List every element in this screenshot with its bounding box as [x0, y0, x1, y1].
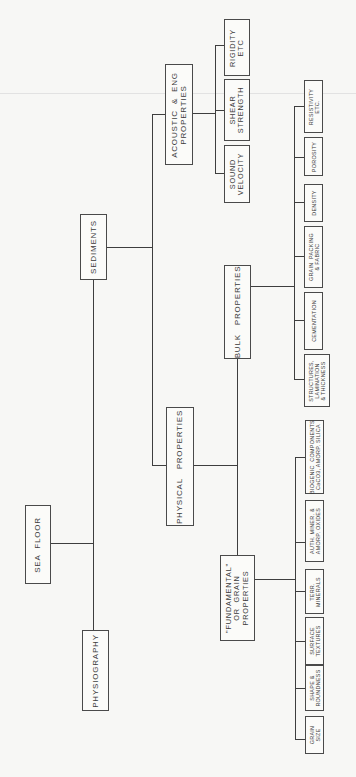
node-cementation: CEMENTATION [304, 292, 323, 350]
node-bulk-properties: BULK PROPERTIES [224, 265, 251, 359]
connector [215, 110, 224, 111]
node-label: GRAIN PACKING & FABRIC [307, 233, 319, 281]
connector [294, 202, 304, 203]
node-label: BIOGENIC COMPONENTS CaCO3, AMORP. SILICA [308, 420, 320, 494]
node-sea-floor: SEA FLOOR [25, 505, 51, 584]
connector [295, 457, 296, 740]
connector [294, 256, 304, 257]
node-label: SHEAR STRENGTH [229, 87, 246, 134]
node-label: SURFACE TEXTURES [308, 625, 320, 656]
node-label: CEMENTATION [310, 300, 316, 342]
node-terrigenous-minerals: TERR. MINERALS [305, 569, 324, 614]
connector [295, 688, 305, 689]
node-label: SOUND VELOCITY [229, 153, 246, 196]
node-label: RESISTIVITY ETC. [307, 88, 319, 124]
node-label: DENSITY [310, 190, 316, 215]
node-label: ACOUSTIC & ENG PROPERTIES [170, 72, 188, 158]
node-label: TERR. MINERALS [308, 577, 320, 607]
node-structures: STRUCTURES, LAMINATION & THICKNESS [304, 354, 330, 407]
connector [250, 286, 295, 287]
node-label: SEA FLOOR [33, 517, 42, 573]
node-grain-packing: GRAIN PACKING & FABRIC [304, 226, 323, 288]
node-label: PHYSICAL PROPERTIES [175, 409, 184, 523]
node-grain-properties: "FUNDAMENTAL" OR GRAIN PROPERTIES [220, 555, 255, 641]
node-label: POROSITY [310, 141, 316, 171]
node-resistivity: RESISTIVITY ETC. [304, 80, 323, 133]
connector [254, 579, 296, 580]
node-rigidity: RIGIDITY ETC [224, 19, 250, 76]
node-label: SHAPE & ROUNDNESS [308, 669, 320, 706]
connector [295, 641, 305, 642]
node-porosity: POROSITY [304, 137, 323, 176]
connector [215, 173, 224, 174]
connector [194, 465, 238, 466]
node-label: PHYSIOGRAPHY [91, 634, 100, 708]
connector [93, 279, 94, 631]
node-sediments: SEDIMENTS [80, 214, 107, 280]
connector [294, 379, 304, 380]
node-physical-properties: PHYSICAL PROPERTIES [166, 407, 194, 526]
connector [237, 358, 238, 555]
connector [295, 457, 305, 458]
node-shape-roundness: SHAPE & ROUNDNESS [305, 665, 324, 711]
node-label: RIGIDITY ETC [229, 28, 246, 66]
connector [295, 542, 305, 543]
node-authigenic-minerals: AUTH. MINER. & AMORP. OXIDES [305, 500, 324, 562]
connector [152, 465, 166, 466]
node-sound-velocity: SOUND VELOCITY [224, 145, 250, 203]
node-surface-textures: SURFACE TEXTURES [305, 617, 324, 665]
connector [193, 113, 215, 114]
node-grain-size: GRAIN SIZE [305, 716, 324, 754]
connector [294, 320, 304, 321]
node-label: "FUNDAMENTAL" OR GRAIN PROPERTIES [225, 563, 250, 633]
connector [152, 114, 166, 115]
node-shear-strength: SHEAR STRENGTH [224, 79, 250, 141]
connector [294, 106, 304, 107]
node-label: SEDIMENTS [89, 220, 98, 274]
node-label: STRUCTURES, LAMINATION & THICKNESS [308, 360, 327, 402]
connector [295, 591, 305, 592]
node-physiography: PHYSIOGRAPHY [82, 630, 109, 711]
connector [294, 157, 304, 158]
connector [50, 543, 93, 544]
node-label: AUTH. MINER. & AMORP. OXIDES [308, 508, 320, 554]
node-density: DENSITY [304, 184, 323, 222]
node-label: BULK PROPERTIES [233, 266, 242, 359]
connector [107, 247, 153, 248]
node-label: GRAIN SIZE [308, 726, 320, 745]
connector [152, 114, 153, 466]
connector [295, 739, 305, 740]
node-acoustic-eng-properties: ACOUSTIC & ENG PROPERTIES [165, 64, 193, 165]
connector [294, 106, 295, 380]
node-biogenic-components: BIOGENIC COMPONENTS CaCO3, AMORP. SILICA [305, 420, 324, 494]
connector [215, 45, 224, 46]
